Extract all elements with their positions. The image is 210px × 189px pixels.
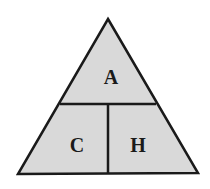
formula-triangle-diagram: A C H [0,0,210,189]
label-top-section: A [104,66,119,88]
label-bottom-left-section: C [70,134,84,156]
label-bottom-right-section: H [130,134,146,156]
